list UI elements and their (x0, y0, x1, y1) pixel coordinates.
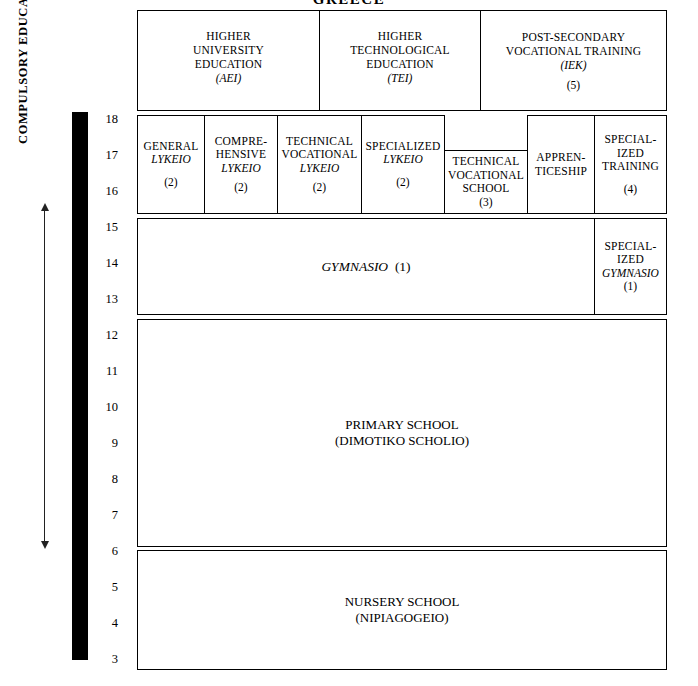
compulsory-education-label: COMPULSORY EDUCATION (14, 0, 32, 214)
age-tick-12: 12 (96, 329, 118, 341)
box-specialized-gymnasio: SPECIAL- IZED GYMNASIO (1) (594, 218, 667, 315)
box-label: SPECIALIZED (365, 140, 440, 154)
box-subtitle: (DIMOTIKO SCHOLIO) (335, 433, 469, 449)
age-scale-bar (72, 112, 88, 660)
box-higher-university-education: HIGHER UNIVERSITY EDUCATION (AEI) (137, 10, 320, 111)
box-abbr: (TEI) (388, 71, 413, 85)
box-abbr: (AEI) (216, 71, 242, 85)
age-tick-17: 17 (96, 149, 118, 161)
age-tick-8: 8 (96, 473, 118, 485)
box-note: (1) (395, 259, 411, 274)
box-technical-vocational-lykeio: TECHNICAL VOCATIONAL LYKEIO (2) (277, 115, 362, 214)
box-note: (2) (396, 176, 409, 190)
box-label: APPREN- TICESHIP (535, 151, 587, 178)
box-ital-label: LYKEIO (151, 153, 190, 167)
box-note: (5) (567, 78, 580, 92)
gymnasio-name: GYMNASIO (321, 259, 388, 274)
education-system-diagram: GREECE COMPULSORY EDUCATION 181716151413… (0, 0, 698, 686)
box-apprenticeship: APPREN- TICESHIP (527, 115, 595, 214)
box-label: TECHNICAL VOCATIONAL SCHOOL (448, 155, 524, 196)
box-note: (1) (624, 280, 637, 294)
box-label: POST-SECONDARY VOCATIONAL TRAINING (506, 30, 642, 58)
diagram-frame: HIGHER UNIVERSITY EDUCATION (AEI) HIGHER… (137, 10, 667, 670)
box-label: PRIMARY SCHOOL (345, 417, 458, 433)
box-subtitle: (NIPIAGOGEIO) (355, 610, 448, 626)
compulsory-education-arrow (44, 210, 45, 542)
box-label: HIGHER TECHNOLOGICAL EDUCATION (350, 29, 450, 71)
box-higher-technological-education: HIGHER TECHNOLOGICAL EDUCATION (TEI) (319, 10, 481, 111)
box-ital-label: LYKEIO (221, 162, 260, 176)
box-primary-school: PRIMARY SCHOOL (DIMOTIKO SCHOLIO) (137, 319, 667, 547)
age-tick-9: 9 (96, 437, 118, 449)
age-tick-18: 18 (96, 113, 118, 125)
box-ital-label: GYMNASIO (602, 267, 659, 281)
age-tick-14: 14 (96, 257, 118, 269)
age-tick-6: 6 (96, 545, 118, 557)
box-note: (2) (234, 181, 247, 195)
box-note: (2) (313, 181, 326, 195)
box-specialized-training: SPECIAL- IZED TRAINING (4) (594, 115, 667, 214)
age-tick-10: 10 (96, 401, 118, 413)
box-ital-label: GYMNASIO (1) (321, 260, 410, 274)
age-tick-13: 13 (96, 293, 118, 305)
box-label: SPECIAL- IZED (604, 240, 656, 267)
age-tick-16: 16 (96, 185, 118, 197)
page-title: GREECE (0, 0, 698, 8)
box-general-lykeio: GENERAL LYKEIO (2) (137, 115, 205, 214)
age-tick-15: 15 (96, 221, 118, 233)
box-specialized-lykeio: SPECIALIZED LYKEIO (2) (361, 115, 445, 214)
box-nursery-school: NURSERY SCHOOL (NIPIAGOGEIO) (137, 550, 667, 670)
box-label: HIGHER UNIVERSITY EDUCATION (193, 29, 264, 71)
age-tick-3: 3 (96, 653, 118, 665)
box-note: (4) (624, 183, 637, 197)
box-label: GENERAL (143, 140, 198, 154)
box-comprehensive-lykeio: COMPRE- HENSIVE LYKEIO (2) (204, 115, 278, 214)
box-note: (3) (479, 196, 492, 210)
box-label: COMPRE- HENSIVE (215, 135, 268, 162)
box-gymnasio: GYMNASIO (1) (137, 218, 595, 315)
box-ital-label: LYKEIO (383, 153, 422, 167)
box-note: (2) (164, 176, 177, 190)
box-label: SPECIAL- IZED TRAINING (602, 133, 659, 174)
age-tick-7: 7 (96, 509, 118, 521)
age-tick-4: 4 (96, 617, 118, 629)
box-label: NURSERY SCHOOL (345, 594, 460, 610)
box-post-secondary-vocational-training: POST-SECONDARY VOCATIONAL TRAINING (IEK)… (480, 10, 667, 111)
box-abbr: (IEK) (560, 58, 586, 72)
box-label: TECHNICAL VOCATIONAL (281, 135, 357, 162)
age-tick-11: 11 (96, 365, 118, 377)
box-technical-vocational-school: TECHNICAL VOCATIONAL SCHOOL (3) (444, 150, 528, 214)
age-tick-5: 5 (96, 581, 118, 593)
box-ital-label: LYKEIO (300, 162, 339, 176)
